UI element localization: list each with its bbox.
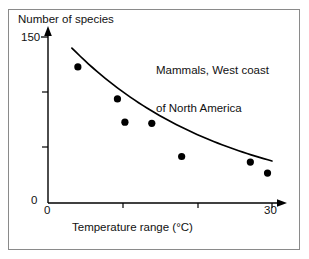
x-axis-tick-label-30: 30: [264, 204, 277, 217]
data-point: [148, 120, 155, 127]
data-point: [74, 63, 81, 70]
data-point: [247, 158, 254, 165]
chart-annotation: Mammals, West coast of North America: [156, 38, 269, 141]
x-axis-arrowhead: [277, 199, 287, 207]
y-axis-title: Number of species: [18, 13, 114, 26]
chart-figure: Number of species 150 0 0 30 Temperature…: [0, 0, 309, 259]
data-point: [178, 153, 185, 160]
x-axis-tick-label-0: 0: [44, 204, 50, 217]
y-axis: [41, 26, 52, 203]
y-axis-tick-label-150: 150: [21, 31, 40, 44]
chart-annotation-line-2: of North America: [156, 102, 269, 115]
y-axis-tick-label-0: 0: [31, 194, 37, 207]
y-axis-arrowhead: [44, 26, 52, 36]
x-axis-title: Temperature range (°C): [72, 221, 193, 234]
x-axis: [48, 199, 287, 208]
data-point: [114, 95, 121, 102]
data-point: [121, 119, 128, 126]
chart-annotation-line-1: Mammals, West coast: [156, 64, 269, 77]
data-point: [264, 170, 271, 177]
